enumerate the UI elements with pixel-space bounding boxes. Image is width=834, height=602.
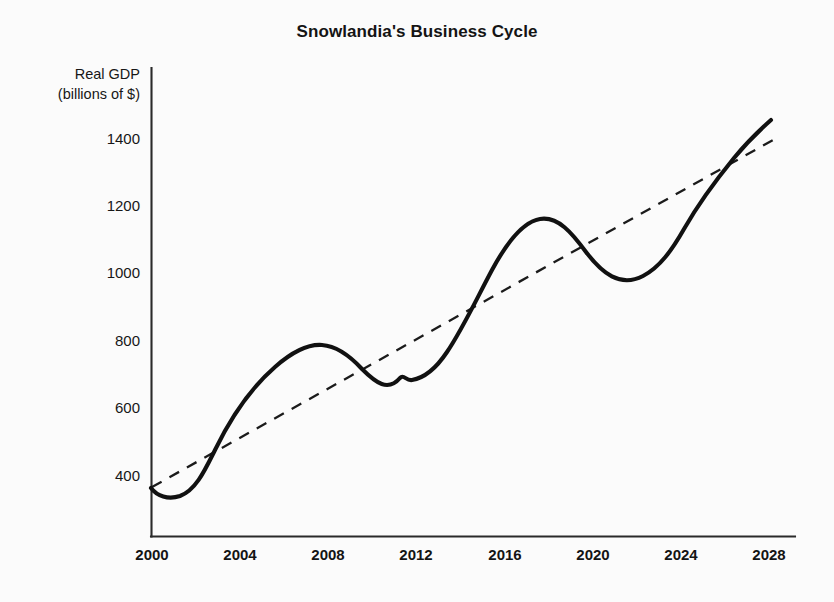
plot-area (0, 0, 834, 602)
chart-page: Snowlandia's Business Cycle Real GDP (bi… (0, 0, 834, 602)
trend-line (152, 140, 773, 487)
real-gdp-curve (151, 120, 771, 498)
